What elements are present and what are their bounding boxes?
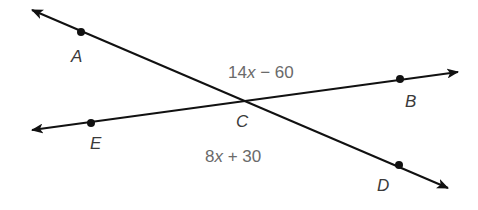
point-E-dot (87, 119, 95, 127)
point-label-A: A (70, 47, 82, 66)
angle-ECD-expression: 8x + 30 (205, 147, 261, 166)
point-label-C: C (236, 112, 249, 131)
point-label-D: D (377, 176, 389, 195)
intersecting-lines-figure: ABCDE14x − 608x + 30 (0, 0, 478, 210)
point-D-dot (395, 161, 403, 169)
point-label-E: E (90, 134, 102, 153)
labels-layer: ABCDE14x − 608x + 30 (70, 47, 416, 195)
point-B-dot (396, 75, 404, 83)
point-A-dot (77, 28, 85, 36)
point-label-B: B (405, 92, 416, 111)
diagram-canvas: ABCDE14x − 608x + 30 (0, 0, 478, 210)
angle-ACB-expression: 14x − 60 (228, 63, 294, 82)
